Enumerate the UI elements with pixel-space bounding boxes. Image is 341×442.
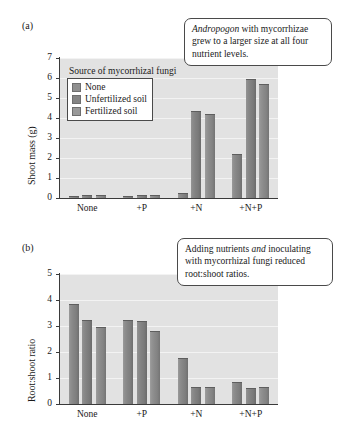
legend-label: None bbox=[85, 82, 106, 93]
panel-b-label: (b) bbox=[22, 242, 34, 253]
legend-item-fertilized-soil: Fertilized soil bbox=[72, 105, 147, 117]
y-tick-mark bbox=[56, 158, 59, 159]
panel-a-label: (a) bbox=[22, 20, 33, 31]
bar bbox=[150, 331, 160, 404]
x-category-label: +N bbox=[169, 409, 224, 419]
y-tick-mark bbox=[56, 118, 59, 119]
legend-item-unfertilized-soil: Unfertilized soil bbox=[72, 93, 147, 105]
panel-b-y-axis-line bbox=[59, 273, 60, 405]
y-tick-mark bbox=[56, 404, 59, 405]
panel-a-callout-emphasis: Andropogon bbox=[192, 24, 239, 34]
legend-label: Fertilized soil bbox=[85, 106, 138, 117]
y-tick-label: 0 bbox=[36, 192, 52, 202]
bar bbox=[232, 382, 242, 404]
gridline bbox=[60, 300, 278, 301]
x-category-label: None bbox=[60, 203, 115, 213]
bar bbox=[178, 358, 188, 404]
bar bbox=[205, 387, 215, 404]
legend-item-none: None bbox=[72, 81, 147, 93]
y-tick-label: 4 bbox=[36, 112, 52, 122]
bar bbox=[191, 387, 201, 404]
y-tick-label: 4 bbox=[36, 294, 52, 304]
panel-a-y-axis-line bbox=[59, 57, 60, 199]
y-tick-mark bbox=[56, 352, 59, 353]
bar bbox=[246, 388, 256, 404]
bar bbox=[69, 304, 79, 404]
bar bbox=[232, 154, 242, 198]
y-tick-mark bbox=[56, 98, 59, 99]
y-tick-mark bbox=[56, 274, 59, 275]
panel-b: (b) Root:shoot ratio Adding nutrients an… bbox=[0, 222, 341, 442]
x-category-label: None bbox=[60, 409, 115, 419]
bar bbox=[191, 111, 201, 198]
panel-b-x-axis-line bbox=[59, 404, 278, 405]
y-tick-label: 1 bbox=[36, 372, 52, 382]
panel-b-plot-area bbox=[60, 274, 278, 404]
panel-a-x-axis-line bbox=[59, 198, 278, 199]
x-category-label: +N+P bbox=[224, 203, 279, 213]
panel-b-callout-lead: Adding nutrients bbox=[185, 244, 252, 254]
panel-b-callout-emphasis: and bbox=[252, 244, 266, 254]
x-category-label: +P bbox=[115, 203, 170, 213]
gridline bbox=[60, 352, 278, 353]
y-tick-mark bbox=[56, 78, 59, 79]
y-tick-label: 3 bbox=[36, 132, 52, 142]
y-tick-mark bbox=[56, 326, 59, 327]
y-tick-mark bbox=[56, 378, 59, 379]
panel-a: (a) Shoot mass (g) Andropogon with mycor… bbox=[0, 0, 341, 222]
y-tick-label: 7 bbox=[36, 52, 52, 62]
bar bbox=[259, 387, 269, 404]
legend-box: None Unfertilized soil Fertilized soil bbox=[67, 78, 153, 121]
y-tick-mark bbox=[56, 58, 59, 59]
y-tick-label: 6 bbox=[36, 72, 52, 82]
y-tick-label: 5 bbox=[36, 268, 52, 278]
y-tick-label: 5 bbox=[36, 92, 52, 102]
legend-swatch-icon bbox=[72, 95, 81, 104]
y-tick-label: 1 bbox=[36, 172, 52, 182]
bar bbox=[123, 320, 133, 404]
y-tick-label: 3 bbox=[36, 320, 52, 330]
y-tick-mark bbox=[56, 198, 59, 199]
y-tick-label: 0 bbox=[36, 398, 52, 408]
gridline bbox=[60, 326, 278, 327]
legend-title: Source of mycorrhizal fungi bbox=[69, 66, 176, 76]
bar bbox=[96, 327, 106, 404]
gridline bbox=[60, 378, 278, 379]
y-tick-mark bbox=[56, 138, 59, 139]
bar bbox=[82, 320, 92, 405]
y-tick-label: 2 bbox=[36, 152, 52, 162]
x-category-label: +N+P bbox=[224, 409, 279, 419]
y-tick-mark bbox=[56, 178, 59, 179]
legend-swatch-icon bbox=[72, 83, 81, 92]
bar bbox=[205, 114, 215, 198]
bar bbox=[137, 321, 147, 404]
bar bbox=[259, 84, 269, 198]
x-category-label: +P bbox=[115, 409, 170, 419]
y-tick-mark bbox=[56, 300, 59, 301]
panel-a-callout: Andropogon with mycorrhizae grew to a la… bbox=[184, 18, 332, 66]
legend-swatch-icon bbox=[72, 107, 81, 116]
bar bbox=[246, 79, 256, 198]
y-tick-label: 2 bbox=[36, 346, 52, 356]
x-category-label: +N bbox=[169, 203, 224, 213]
legend-label: Unfertilized soil bbox=[85, 94, 147, 105]
panel-b-callout: Adding nutrients and inoculating with my… bbox=[177, 238, 333, 286]
